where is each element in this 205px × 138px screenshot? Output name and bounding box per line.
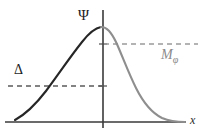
figure-container: Ψ Δ Mφ x — [0, 0, 205, 138]
asymptote-label-mphi: Mφ — [161, 48, 178, 65]
threshold-label-delta: Δ — [14, 63, 23, 77]
curve-rising-branch — [15, 27, 101, 120]
mphi-subscript: φ — [173, 54, 179, 65]
peak-label-psi: Ψ — [78, 8, 89, 23]
x-axis-label: x — [190, 114, 195, 126]
curve-falling-branch — [101, 27, 185, 122]
mphi-base: M — [161, 47, 173, 62]
plot-canvas — [0, 0, 205, 138]
